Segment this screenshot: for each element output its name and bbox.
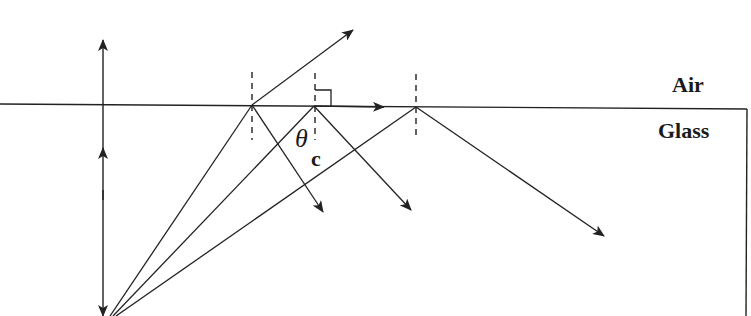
right-angle-icon — [315, 90, 331, 106]
critical-angle-theta: θ — [295, 124, 308, 154]
incident-rays — [110, 105, 416, 316]
interface-line — [0, 104, 747, 316]
ray-1 — [252, 30, 353, 212]
label-glass: Glass — [658, 118, 709, 144]
ray-2 — [314, 106, 411, 210]
diagram-canvas — [0, 0, 751, 316]
critical-angle-subscript: c — [311, 146, 321, 172]
ray-3 — [416, 107, 604, 236]
label-air: Air — [672, 72, 704, 98]
